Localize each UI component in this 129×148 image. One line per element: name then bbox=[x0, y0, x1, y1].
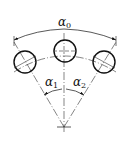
pitch-circle-arc bbox=[14, 56, 116, 72]
alpha2-label: α2 bbox=[73, 75, 86, 90]
right-hole-crossline bbox=[93, 56, 115, 68]
alpha0-label: α0 bbox=[58, 15, 71, 30]
dimension-arc-alpha0-left bbox=[14, 29, 64, 40]
left-hole-crossline bbox=[14, 56, 36, 68]
radial-line-right bbox=[64, 42, 116, 127]
alpha1-label: α1 bbox=[45, 75, 58, 90]
dimension-arc-alpha0-right bbox=[64, 29, 116, 40]
hole-pattern-drawing: α0 α1 α2 bbox=[0, 0, 129, 148]
